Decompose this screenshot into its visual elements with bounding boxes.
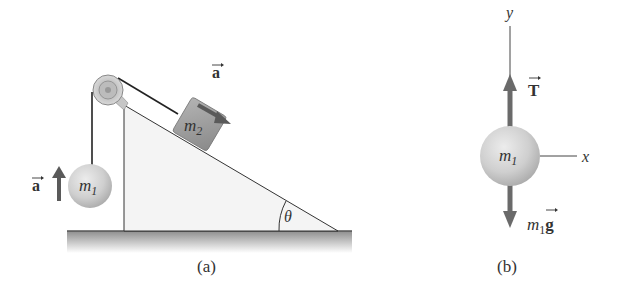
label-tension: T (528, 81, 540, 100)
ground (67, 231, 352, 253)
label-theta: θ (284, 208, 292, 225)
label-accel-hanging: a (32, 177, 40, 194)
pulley-icon (93, 75, 123, 105)
caption-b: (b) (497, 257, 517, 276)
label-weight: m1g (527, 215, 554, 237)
incline (124, 105, 338, 231)
label-x-axis: x (581, 148, 589, 165)
label-y-axis: y (504, 4, 514, 22)
tension-arrow-icon (503, 74, 517, 127)
vector-arrow-icon (546, 208, 558, 212)
accel-up-arrow-icon (52, 166, 66, 201)
caption-a: (a) (197, 257, 216, 276)
vector-arrow-icon (529, 76, 541, 80)
weight-arrow-icon (503, 184, 517, 228)
figure-a: m2 m1 a a θ (a) (32, 63, 352, 276)
label-accel-incline: a (212, 64, 220, 81)
figure-b: y x T m1g m1 (b) (480, 4, 589, 276)
